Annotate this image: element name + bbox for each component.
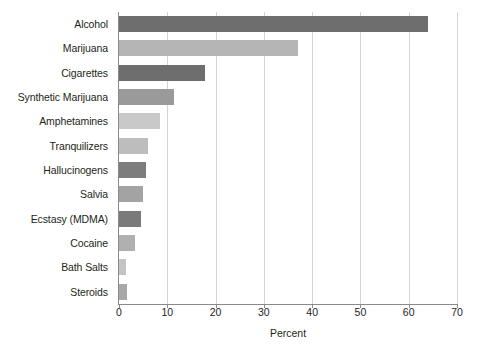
bar-chart: AlcoholMarijuanaCigarettesSynthetic Mari… bbox=[0, 0, 484, 354]
category-label: Hallucinogens bbox=[43, 165, 108, 176]
bar-row bbox=[119, 12, 457, 36]
x-axis-tick-labels: 010203040506070 bbox=[119, 307, 457, 321]
bar-row bbox=[119, 182, 457, 206]
x-tick-label: 70 bbox=[451, 307, 463, 318]
category-label-cell: Salvia bbox=[0, 182, 114, 206]
category-label: Alcohol bbox=[74, 19, 108, 30]
bar bbox=[119, 284, 127, 300]
category-label: Cigarettes bbox=[61, 68, 108, 79]
bar-row bbox=[119, 231, 457, 255]
bar-row bbox=[119, 85, 457, 109]
x-tick-label: 60 bbox=[403, 307, 415, 318]
category-label-cell: Cocaine bbox=[0, 231, 114, 255]
bar-row bbox=[119, 207, 457, 231]
gridline bbox=[457, 12, 458, 304]
category-label: Cocaine bbox=[70, 238, 108, 249]
x-tick-label: 40 bbox=[306, 307, 318, 318]
category-label: Salvia bbox=[80, 189, 108, 200]
plot-area bbox=[119, 12, 457, 304]
bar bbox=[119, 259, 126, 275]
category-label-cell: Amphetamines bbox=[0, 109, 114, 133]
bar-row bbox=[119, 36, 457, 60]
bar bbox=[119, 235, 135, 251]
bar-row bbox=[119, 61, 457, 85]
bar bbox=[119, 211, 141, 227]
bars-container bbox=[119, 12, 457, 304]
bar-row bbox=[119, 109, 457, 133]
category-label: Synthetic Marijuana bbox=[18, 92, 108, 103]
x-tick-label: 50 bbox=[355, 307, 367, 318]
bar-row bbox=[119, 280, 457, 304]
bar bbox=[119, 138, 148, 154]
bar bbox=[119, 40, 298, 56]
category-label-cell: Cigarettes bbox=[0, 61, 114, 85]
bar bbox=[119, 162, 146, 178]
bar bbox=[119, 113, 160, 129]
category-label: Ecstasy (MDMA) bbox=[31, 214, 108, 225]
x-tick-label: 10 bbox=[161, 307, 173, 318]
category-label: Bath Salts bbox=[61, 262, 108, 273]
x-tick-label: 30 bbox=[258, 307, 270, 318]
x-tick-label: 0 bbox=[116, 307, 122, 318]
bar-row bbox=[119, 158, 457, 182]
category-label-cell: Ecstasy (MDMA) bbox=[0, 207, 114, 231]
category-label: Marijuana bbox=[63, 43, 108, 54]
category-label: Tranquilizers bbox=[50, 141, 108, 152]
category-label-cell: Steroids bbox=[0, 280, 114, 304]
category-label-cell: Bath Salts bbox=[0, 255, 114, 279]
bar-row bbox=[119, 134, 457, 158]
bar bbox=[119, 89, 174, 105]
category-label-cell: Tranquilizers bbox=[0, 134, 114, 158]
x-tick-label: 20 bbox=[210, 307, 222, 318]
bar bbox=[119, 65, 205, 81]
x-axis-title: Percent bbox=[119, 328, 457, 339]
category-label: Amphetamines bbox=[39, 116, 108, 127]
bar bbox=[119, 186, 143, 202]
category-label-cell: Alcohol bbox=[0, 12, 114, 36]
category-label-cell: Hallucinogens bbox=[0, 158, 114, 182]
bar-row bbox=[119, 255, 457, 279]
x-axis-line bbox=[118, 304, 457, 305]
category-axis-labels: AlcoholMarijuanaCigarettesSynthetic Mari… bbox=[0, 12, 114, 304]
bar bbox=[119, 16, 428, 32]
category-label-cell: Synthetic Marijuana bbox=[0, 85, 114, 109]
category-label: Steroids bbox=[70, 287, 108, 298]
category-label-cell: Marijuana bbox=[0, 36, 114, 60]
